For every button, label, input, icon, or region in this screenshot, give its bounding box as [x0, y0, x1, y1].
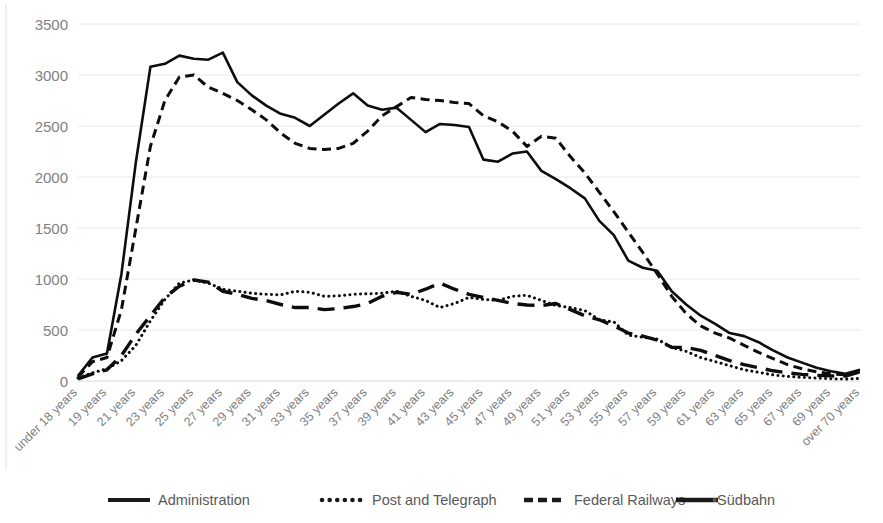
chart-legend: AdministrationPost and TelegraphFederal … — [108, 492, 775, 508]
y-axis-tick-label: 3000 — [35, 67, 68, 84]
line-chart: 0500100015002000250030003500 under 18 ye… — [0, 0, 883, 523]
series-line-s-dbahn — [78, 280, 860, 379]
y-axis-tick-label: 2500 — [35, 118, 68, 135]
legend-label[interactable]: Federal Railways — [574, 492, 685, 508]
y-axis-tick-labels: 0500100015002000250030003500 — [35, 16, 68, 390]
y-axis-tick-label: 2000 — [35, 169, 68, 186]
series-line-federal-railways — [78, 75, 860, 377]
legend-label[interactable]: Administration — [158, 492, 250, 508]
y-axis-tick-label: 1000 — [35, 271, 68, 288]
legend-label[interactable]: Post and Telegraph — [372, 492, 497, 508]
y-axis-tick-label: 1500 — [35, 220, 68, 237]
y-axis-tick-label: 500 — [43, 322, 68, 339]
chart-canvas: 0500100015002000250030003500 under 18 ye… — [0, 0, 883, 523]
x-axis-tick-labels: under 18 years19 years21 years23 years25… — [11, 385, 862, 454]
y-axis-tick-label: 0 — [60, 373, 68, 390]
y-axis-tick-label: 3500 — [35, 16, 68, 33]
series-line-administration — [78, 53, 860, 376]
legend-label[interactable]: •Südbahn — [712, 492, 775, 508]
